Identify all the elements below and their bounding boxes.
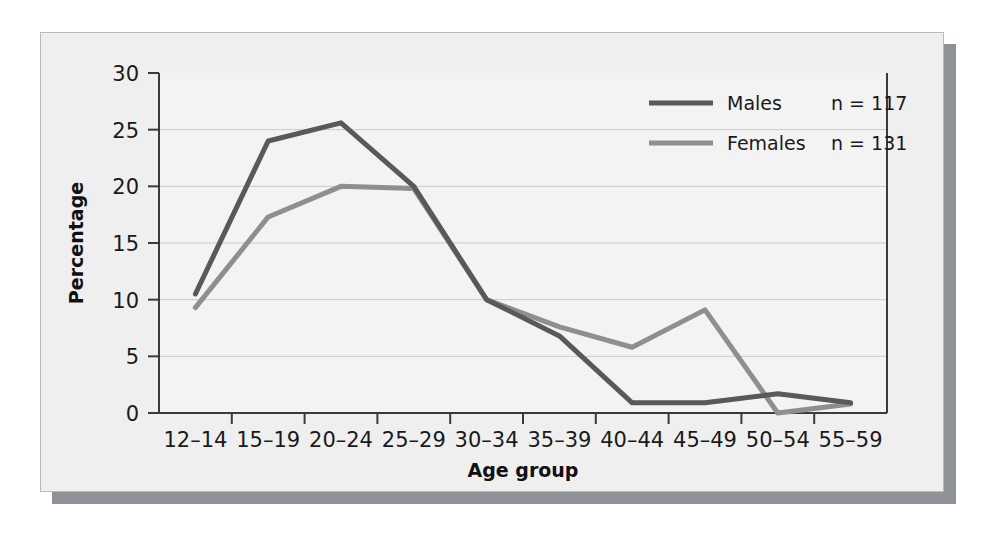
x-axis-tick-label: 50–54	[746, 428, 810, 452]
y-axis-title: Percentage	[65, 182, 87, 304]
y-axis-tick-label: 20	[112, 175, 139, 199]
y-axis-ticks: 051015202530	[112, 62, 159, 426]
x-axis-tick-label: 15–19	[236, 428, 300, 452]
legend-label-males: Males	[727, 92, 782, 114]
x-axis-tick-label: 30–34	[455, 428, 519, 452]
chart-panel: 051015202530 12–1415–1920–2425–2930–3435…	[40, 32, 944, 492]
x-axis-tick-label: 55–59	[819, 428, 883, 452]
y-axis-tick-label: 15	[112, 232, 139, 256]
x-axis-ticks: 12–1415–1920–2425–2930–3435–3940–4445–49…	[163, 413, 882, 452]
figure-root: 051015202530 12–1415–1920–2425–2930–3435…	[0, 0, 1007, 550]
y-axis-tick-label: 5	[126, 345, 139, 369]
x-axis-tick-label: 45–49	[673, 428, 737, 452]
x-axis-tick-label: 20–24	[309, 428, 373, 452]
legend-label-females: Females	[727, 132, 806, 154]
x-axis-tick-label: 12–14	[163, 428, 227, 452]
y-axis-tick-label: 30	[112, 62, 139, 86]
legend-count-females: n = 131	[831, 132, 907, 154]
legend-count-males: n = 117	[831, 92, 907, 114]
line-chart: 051015202530 12–1415–1920–2425–2930–3435…	[41, 33, 943, 491]
x-axis-tick-label: 35–39	[527, 428, 591, 452]
x-axis-tick-label: 40–44	[600, 428, 664, 452]
x-axis-title: Age group	[468, 459, 579, 481]
x-axis-tick-label: 25–29	[382, 428, 446, 452]
y-axis-tick-label: 25	[112, 119, 139, 143]
y-axis-tick-label: 10	[112, 289, 139, 313]
y-axis-tick-label: 0	[126, 402, 139, 426]
